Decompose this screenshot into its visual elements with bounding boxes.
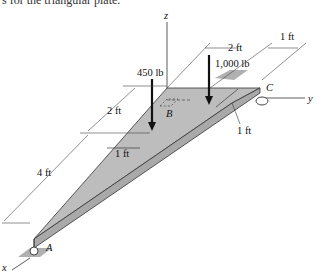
caption-fragment: s for the triangular plate.: [2, 0, 120, 7]
support-c-ball: [256, 97, 268, 105]
y-axis-label: y: [307, 93, 313, 104]
triangular-plate-diagram: s for the triangular plate. z y x A B C …: [0, 0, 317, 272]
point-c-label: C: [266, 82, 274, 93]
dim-1ft-right-label: 1 ft: [237, 125, 251, 136]
support-c-base: [215, 70, 248, 80]
dim-4ft-label: 4 ft: [37, 167, 51, 178]
dim-1ft-top-label: 1 ft: [280, 31, 294, 42]
x-axis-label: x: [1, 262, 7, 272]
dim-2ft-top-label: 2 ft: [228, 42, 242, 53]
dim-2ft-left-label: 2 ft: [107, 105, 121, 116]
x-axis: [12, 258, 30, 270]
z-axis-label: z: [163, 10, 168, 21]
load-450-label: 450 lb: [137, 67, 164, 78]
support-a-roller: [30, 247, 38, 255]
point-b-label: B: [166, 108, 173, 119]
dim-1ft-inner-label: 1 ft: [115, 148, 129, 159]
dim-ext-line: [167, 43, 210, 88]
dim-ext-line: [262, 43, 306, 80]
point-a-label: A: [45, 242, 53, 253]
